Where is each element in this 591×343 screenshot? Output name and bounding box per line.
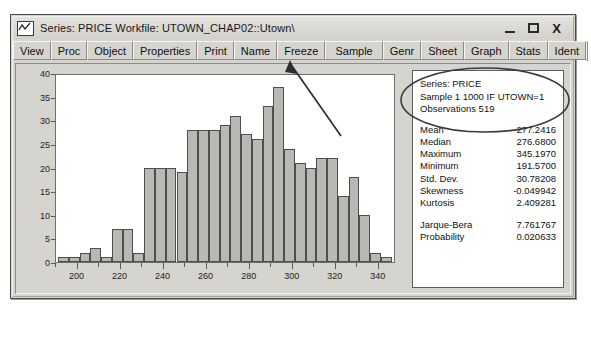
x-axis-tick-mark bbox=[313, 263, 314, 267]
x-axis-tick-label: 300 bbox=[284, 271, 299, 281]
title-bar[interactable]: Series: PRICE Workfile: UTOWN_CHAP02::Ut… bbox=[13, 17, 573, 39]
toolbar-filler bbox=[586, 41, 588, 61]
histogram-bar bbox=[295, 163, 306, 262]
x-axis-tick-label: 200 bbox=[69, 271, 84, 281]
x-axis-tick-mark bbox=[55, 263, 56, 267]
y-axis-tick-label: 0 bbox=[45, 258, 50, 268]
histogram-bar bbox=[327, 158, 338, 262]
histogram-bar bbox=[220, 125, 231, 262]
x-axis-tick-label: 260 bbox=[198, 271, 213, 281]
x-axis-tick-mark bbox=[98, 263, 99, 267]
histogram-bar bbox=[273, 87, 284, 262]
stat-label: Minimum bbox=[420, 160, 459, 172]
toolbar-button-ident[interactable]: Ident bbox=[548, 41, 586, 60]
minimize-icon[interactable] bbox=[504, 22, 517, 35]
histogram-bar bbox=[177, 172, 188, 262]
histogram-bar bbox=[370, 253, 381, 262]
stat-row: Maximum345.1970 bbox=[420, 148, 556, 160]
plot-area bbox=[55, 74, 395, 263]
histogram-bar bbox=[69, 257, 80, 262]
y-axis-tick-label: 10 bbox=[40, 211, 50, 221]
histogram-bar bbox=[306, 168, 317, 263]
stat-label: Jarque-Bera bbox=[420, 219, 472, 231]
stat-label: Median bbox=[420, 136, 451, 148]
histogram-bar bbox=[241, 134, 252, 262]
x-axis-tick-label: 240 bbox=[155, 271, 170, 281]
x-axis-tick-mark bbox=[356, 263, 357, 267]
histogram-bar bbox=[209, 130, 220, 262]
stat-label: Std. Dev. bbox=[420, 173, 458, 185]
histogram-bar bbox=[381, 257, 392, 262]
histogram-bar bbox=[252, 139, 263, 262]
x-axis-tick-mark bbox=[227, 263, 228, 267]
toolbar-group-print: Print Name Freeze bbox=[197, 40, 325, 61]
stat-value: 191.5700 bbox=[516, 160, 556, 172]
histogram-bar bbox=[112, 229, 123, 262]
x-axis-tick-label: 340 bbox=[370, 271, 385, 281]
stats-observations-line: Observations 519 bbox=[420, 103, 563, 116]
histogram-bar bbox=[284, 149, 295, 262]
toolbar-button-proc[interactable]: Proc bbox=[51, 41, 88, 60]
statistics-header: Series: PRICE Sample 1 1000 IF UTOWN=1 O… bbox=[413, 71, 563, 120]
histogram-bar bbox=[187, 130, 198, 262]
histogram-bar bbox=[198, 130, 209, 262]
stats-series-line: Series: PRICE bbox=[420, 78, 563, 91]
y-axis-tick-label: 15 bbox=[40, 187, 50, 197]
x-axis-tick-mark bbox=[378, 263, 379, 269]
toolbar-button-graph[interactable]: Graph bbox=[464, 41, 509, 60]
close-icon[interactable]: X bbox=[550, 22, 563, 35]
x-axis-tick-label: 280 bbox=[241, 271, 256, 281]
y-axis-tick-label: 20 bbox=[40, 164, 50, 174]
stat-value: 2.409281 bbox=[516, 197, 556, 209]
stat-row: Skewness-0.049942 bbox=[420, 185, 556, 197]
histogram-bar bbox=[58, 257, 69, 262]
x-axis-tick-mark bbox=[77, 263, 78, 269]
x-axis-tick-mark bbox=[120, 263, 121, 269]
x-axis-tick-mark bbox=[270, 263, 271, 267]
stat-label: Kurtosis bbox=[420, 197, 454, 209]
x-axis-tick-mark bbox=[335, 263, 336, 269]
stat-row: Minimum191.5700 bbox=[420, 160, 556, 172]
window-controls: X bbox=[504, 22, 573, 35]
x-axis-tick-mark bbox=[292, 263, 293, 269]
stat-label: Skewness bbox=[420, 185, 463, 197]
toolbar-button-genr[interactable]: Genr bbox=[383, 41, 421, 60]
maximize-icon[interactable] bbox=[527, 22, 540, 35]
toolbar-button-sheet[interactable]: Sheet bbox=[421, 41, 464, 60]
histogram-chart: 0510152025303540 20022024026028030032034… bbox=[22, 70, 400, 292]
toolbar-button-properties[interactable]: Properties bbox=[133, 41, 197, 60]
histogram-bar bbox=[80, 253, 91, 262]
histogram-bar bbox=[123, 229, 134, 262]
toolbar-group-sample: Sample Genr Sheet Graph Stats Ident bbox=[325, 40, 586, 61]
stat-value: 276.6800 bbox=[516, 136, 556, 148]
stat-row: Mean277.2416 bbox=[420, 124, 556, 136]
toolbar-button-object[interactable]: Object bbox=[87, 41, 133, 60]
histogram-bar bbox=[166, 168, 177, 263]
stats-sample-line: Sample 1 1000 IF UTOWN=1 bbox=[420, 91, 563, 104]
toolbar-button-freeze[interactable]: Freeze bbox=[277, 41, 325, 60]
y-axis-tick-label: 5 bbox=[45, 234, 50, 244]
stat-row: Kurtosis2.409281 bbox=[420, 197, 556, 209]
toolbar-button-stats[interactable]: Stats bbox=[509, 41, 548, 60]
x-axis-tick-label: 220 bbox=[112, 271, 127, 281]
toolbar-button-view[interactable]: View bbox=[13, 41, 51, 60]
stat-value: 7.761767 bbox=[516, 219, 556, 231]
toolbar-button-print[interactable]: Print bbox=[197, 41, 234, 60]
stat-row: Jarque-Bera7.761767 bbox=[420, 219, 556, 231]
histogram-bar bbox=[349, 177, 360, 262]
x-axis-tick-mark bbox=[249, 263, 250, 269]
stat-row: Std. Dev.30.78208 bbox=[420, 173, 556, 185]
toolbar-button-name[interactable]: Name bbox=[234, 41, 277, 60]
statistics-panel: Series: PRICE Sample 1 1000 IF UTOWN=1 O… bbox=[412, 70, 564, 288]
x-axis-tick-label: 320 bbox=[327, 271, 342, 281]
toolbar-button-sample[interactable]: Sample bbox=[325, 41, 382, 60]
toolbar-group-view: View Proc Object Properties bbox=[13, 40, 197, 61]
histogram-bars bbox=[56, 75, 394, 262]
stat-label: Maximum bbox=[420, 148, 461, 160]
stat-label: Probability bbox=[420, 231, 464, 243]
y-axis: 0510152025303540 bbox=[22, 70, 55, 263]
window-title: Series: PRICE Workfile: UTOWN_CHAP02::Ut… bbox=[40, 22, 295, 34]
stat-value: 0.020633 bbox=[516, 231, 556, 243]
y-axis-tick-label: 35 bbox=[40, 93, 50, 103]
histogram-bar bbox=[90, 248, 101, 262]
